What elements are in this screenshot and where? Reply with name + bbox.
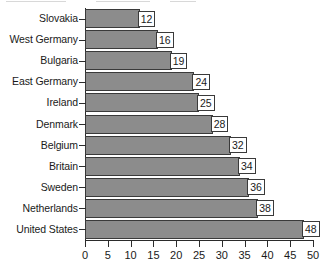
value-tick-mark xyxy=(199,241,200,247)
bar-row: 34 xyxy=(85,157,313,176)
bar xyxy=(85,51,172,70)
bar-value-label: 28 xyxy=(211,116,229,132)
bar-value-label: 16 xyxy=(156,32,174,48)
value-tick-mark xyxy=(313,241,314,247)
category-label: West Germany xyxy=(0,34,78,45)
value-tick-label: 20 xyxy=(170,249,182,262)
value-tick-label: 35 xyxy=(238,249,250,262)
category-label: Britain xyxy=(0,161,78,172)
bar-row: 36 xyxy=(85,178,313,197)
category-label: East Germany xyxy=(0,76,78,87)
bar-chart: SlovakiaWest GermanyBulgariaEast Germany… xyxy=(0,0,323,269)
bar-row: 38 xyxy=(85,199,313,218)
value-tick-mark xyxy=(176,241,177,247)
bar xyxy=(85,30,158,49)
bar-value-label: 48 xyxy=(302,221,320,237)
bar xyxy=(85,157,240,176)
category-label: Ireland xyxy=(0,97,78,108)
bar xyxy=(85,72,194,91)
category-tick-mark xyxy=(79,166,86,167)
category-label: Slovakia xyxy=(0,13,78,24)
bar-row: 24 xyxy=(85,72,313,91)
bar-row: 19 xyxy=(85,51,313,70)
value-tick-mark xyxy=(153,241,154,247)
bar xyxy=(85,115,213,134)
category-tick-mark xyxy=(79,208,86,209)
category-tick-mark xyxy=(79,145,86,146)
value-tick-label: 0 xyxy=(82,249,88,262)
category-tick-mark xyxy=(79,19,86,20)
bar-row: 32 xyxy=(85,136,313,155)
value-tick-label: 50 xyxy=(307,249,319,262)
category-label: Sweden xyxy=(0,182,78,193)
value-tick-mark xyxy=(222,241,223,247)
value-tick-label: 5 xyxy=(105,249,111,262)
category-label: Denmark xyxy=(0,119,78,130)
value-tick-label: 10 xyxy=(124,249,136,262)
bar xyxy=(85,136,231,155)
bar xyxy=(85,220,304,239)
bar-row: 12 xyxy=(85,9,313,28)
value-tick-mark xyxy=(267,241,268,247)
bar-value-label: 24 xyxy=(192,74,210,90)
bar-row: 28 xyxy=(85,115,313,134)
value-tick-mark xyxy=(108,241,109,247)
bar-value-label: 38 xyxy=(256,200,274,216)
category-label: Netherlands xyxy=(0,203,78,214)
bar-value-label: 32 xyxy=(229,137,247,153)
bar xyxy=(85,199,258,218)
category-label: Belgium xyxy=(0,140,78,151)
bar-value-label: 34 xyxy=(238,158,256,174)
value-tick-label: 25 xyxy=(193,249,205,262)
category-tick-mark xyxy=(79,229,86,230)
bar xyxy=(85,9,140,28)
scan-artifact xyxy=(96,1,150,2)
value-tick-mark xyxy=(290,241,291,247)
bar-value-label: 19 xyxy=(170,53,188,69)
bar xyxy=(85,93,199,112)
plot-area: 1216192425283234363848 xyxy=(85,8,313,240)
value-tick-mark xyxy=(245,241,246,247)
value-tick-mark xyxy=(85,241,86,247)
category-tick-mark xyxy=(79,82,86,83)
bar-value-label: 36 xyxy=(247,179,265,195)
category-tick-mark xyxy=(79,40,86,41)
category-label: United States xyxy=(0,224,78,235)
value-tick-label: 45 xyxy=(284,249,296,262)
category-tick-mark xyxy=(79,61,86,62)
category-tick-mark xyxy=(79,187,86,188)
value-tick-label: 15 xyxy=(147,249,159,262)
bar-row: 16 xyxy=(85,30,313,49)
category-axis-labels: SlovakiaWest GermanyBulgariaEast Germany… xyxy=(0,8,78,240)
scan-artifact xyxy=(170,1,196,2)
scan-artifact xyxy=(6,1,66,2)
bar-value-label: 12 xyxy=(138,11,156,27)
category-label: Bulgaria xyxy=(0,55,78,66)
value-tick-label: 40 xyxy=(261,249,273,262)
bar-value-label: 25 xyxy=(197,95,215,111)
value-tick-mark xyxy=(131,241,132,247)
category-tick-mark xyxy=(79,103,86,104)
category-tick-mark xyxy=(79,124,86,125)
bar-row: 25 xyxy=(85,93,313,112)
bar-row: 48 xyxy=(85,220,313,239)
value-tick-label: 30 xyxy=(216,249,228,262)
bar xyxy=(85,178,249,197)
